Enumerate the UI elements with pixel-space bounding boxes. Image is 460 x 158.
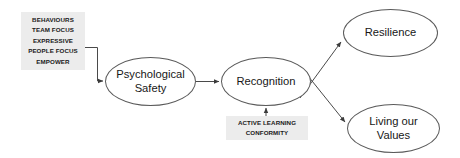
behaviours-line-2: TEAM FOCUS (32, 25, 74, 36)
edge-behaviours-to-psychological-safety (85, 48, 103, 82)
active-learning-line-2: CONFORMITY (246, 128, 289, 138)
node-psychological-safety-line-2: Safety (135, 82, 167, 94)
node-living-our-values-label: Living our Values (365, 115, 422, 142)
diagram-canvas: BEHAVIOURS TEAM FOCUS EXPRESSIVE PEOPLE … (0, 0, 460, 158)
node-resilience-label: Resilience (361, 26, 421, 40)
behaviours-line-4: PEOPLE FOCUS (28, 46, 78, 57)
behaviours-line-3: EXPRESSIVE (33, 36, 73, 47)
node-resilience: Resilience (343, 9, 438, 57)
node-living-our-values-line-2: Values (377, 129, 410, 141)
active-learning-input-box: ACTIVE LEARNING CONFORMITY (226, 116, 308, 140)
node-resilience-line-1: Resilience (365, 26, 417, 38)
node-psychological-safety: Psychological Safety (105, 57, 196, 106)
node-psychological-safety-label: Psychological Safety (112, 68, 188, 95)
behaviours-line-1: BEHAVIOURS (32, 15, 74, 26)
behaviours-line-5: EMPOWER (36, 57, 69, 68)
node-living-our-values-line-1: Living our (369, 115, 418, 127)
behaviours-input-box: BEHAVIOURS TEAM FOCUS EXPRESSIVE PEOPLE … (21, 12, 85, 70)
active-learning-line-1: ACTIVE LEARNING (238, 118, 296, 128)
node-recognition: Recognition (221, 57, 311, 106)
node-recognition-label: Recognition (232, 75, 299, 89)
node-living-our-values: Living our Values (347, 104, 440, 153)
node-recognition-line-1: Recognition (236, 75, 295, 87)
node-psychological-safety-line-1: Psychological (116, 68, 184, 80)
